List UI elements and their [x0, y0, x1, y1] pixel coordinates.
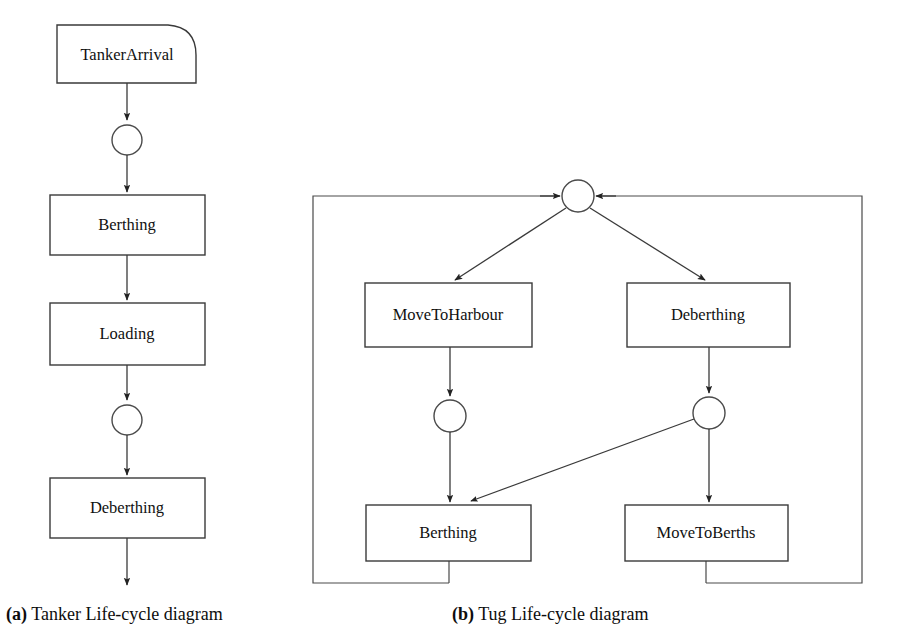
node-state-circle-left[interactable]: [434, 400, 466, 432]
node-label-loading: Loading: [100, 324, 155, 343]
node-label-move-to-berths: MoveToBerths: [657, 523, 756, 542]
caption-tanker-lifecycle: (a) Tanker Life-cycle diagram: [6, 604, 223, 625]
caption-text-b: Tug Life-cycle diagram: [474, 604, 648, 624]
edge-statetop-to-deberthing: [590, 208, 705, 280]
edge-stateright-to-berthing-b: [471, 419, 694, 501]
node-state-circle-right[interactable]: [693, 397, 725, 429]
caption-tag-b: (b): [452, 604, 474, 624]
caption-tag-a: (a): [6, 604, 27, 624]
lifecycle-diagrams-canvas: TankerArrival Berthing Loading D: [0, 0, 906, 635]
node-state-circle-top[interactable]: [562, 180, 594, 212]
node-label-move-to-harbour: MoveToHarbour: [393, 305, 504, 324]
node-label-deberthing-b: Deberthing: [671, 305, 745, 324]
caption-tug-lifecycle: (b) Tug Life-cycle diagram: [452, 604, 648, 625]
figure-root: TankerArrival Berthing Loading D: [0, 0, 906, 635]
panel-tug-lifecycle: MoveToHarbour Deberthing Berthing MoveTo…: [313, 180, 862, 583]
node-state-circle-1[interactable]: [112, 125, 142, 155]
caption-text-a: Tanker Life-cycle diagram: [27, 604, 223, 624]
node-label-tanker-arrival: TankerArrival: [80, 45, 174, 64]
node-label-berthing-a: Berthing: [98, 215, 156, 234]
node-state-circle-2[interactable]: [112, 405, 142, 435]
edge-statetop-to-movetoharbour: [455, 208, 566, 280]
node-label-berthing-b: Berthing: [419, 523, 477, 542]
node-label-deberthing-a: Deberthing: [90, 498, 164, 517]
panel-tanker-lifecycle: TankerArrival Berthing Loading D: [50, 25, 205, 585]
